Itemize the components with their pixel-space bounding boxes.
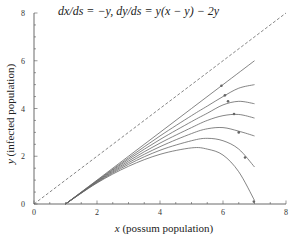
x-tick-label: 4 bbox=[158, 208, 162, 217]
trajectory-5 bbox=[66, 127, 255, 204]
trajectory-3 bbox=[66, 101, 255, 204]
reference-line-y-equals-x bbox=[34, 13, 286, 204]
trajectory-marker bbox=[233, 113, 236, 116]
y-tick-label: 2 bbox=[21, 152, 25, 161]
trajectory-marker bbox=[237, 131, 240, 134]
y-axis-label: y (infected population) bbox=[4, 54, 16, 174]
x-tick-label: 8 bbox=[284, 208, 288, 217]
chart-title: dx/ds = −y, dy/ds = y(x − y) − 2y bbox=[58, 4, 219, 19]
y-tick-label: 8 bbox=[21, 9, 25, 18]
x-axis-description: (possum population) bbox=[120, 222, 214, 234]
x-axis-label: x (possum population) bbox=[0, 222, 298, 234]
y-axis-variable: y bbox=[4, 159, 16, 164]
y-axis-description: (infected population) bbox=[4, 64, 16, 159]
x-tick-label: 6 bbox=[221, 208, 225, 217]
x-tick-label: 0 bbox=[32, 208, 36, 217]
trajectory-marker bbox=[253, 200, 256, 203]
trajectory-marker bbox=[220, 85, 223, 88]
trajectory-marker bbox=[227, 100, 230, 103]
y-tick-label: 4 bbox=[21, 105, 25, 114]
dashed-line bbox=[34, 13, 286, 204]
trajectory-marker bbox=[244, 156, 247, 159]
trajectories bbox=[66, 61, 256, 204]
x-tick-label: 2 bbox=[95, 208, 99, 217]
y-tick-label: 0 bbox=[21, 200, 25, 209]
trajectory-7 bbox=[66, 148, 255, 204]
trajectory-2 bbox=[66, 85, 255, 204]
trajectory-6 bbox=[66, 138, 255, 204]
y-tick-label: 6 bbox=[21, 57, 25, 66]
phase-plane-chart: 0246802468 bbox=[0, 0, 298, 243]
trajectory-marker bbox=[224, 94, 227, 97]
